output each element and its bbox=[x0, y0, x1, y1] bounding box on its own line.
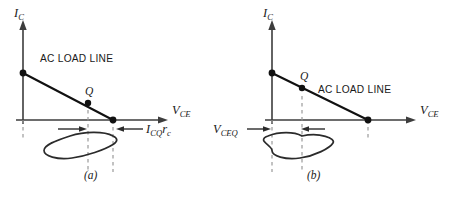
panel-b-swing-arrow-right bbox=[247, 126, 271, 132]
panel-b-y-axis-label: IC bbox=[263, 7, 273, 20]
panel-b-x-axis-label: VCE bbox=[420, 104, 439, 117]
panel-b-saturation-point bbox=[269, 70, 276, 77]
panel-a-swing-magnitude-label: ICQrc bbox=[146, 123, 171, 136]
panel-a-output-waveform bbox=[44, 132, 117, 158]
panel-a-caption: (a) bbox=[84, 170, 97, 182]
panel-b-graphics bbox=[247, 20, 416, 172]
panel-a-q-point bbox=[85, 100, 91, 106]
panel-a-cutoff-point bbox=[110, 117, 117, 124]
ac-load-line-figure: IC VCE AC LOAD LINE Q ICQrc (a) IC VCE A… bbox=[0, 0, 449, 197]
panel-a-y-axis-label: IC bbox=[14, 7, 24, 20]
panel-a-swing-arrow-left bbox=[116, 126, 143, 132]
panel-b-ac-load-line-label: AC LOAD LINE bbox=[318, 85, 391, 95]
panel-b-cutoff-point bbox=[365, 117, 372, 124]
panel-a-saturation-point bbox=[20, 70, 27, 77]
panel-b-x-axis bbox=[265, 116, 416, 123]
panel-a-x-axis-label: VCE bbox=[172, 104, 191, 117]
panel-b-caption: (b) bbox=[307, 170, 320, 182]
panel-a-swing-arrow-right bbox=[58, 126, 87, 132]
panel-a-ac-load-line bbox=[23, 73, 113, 120]
panel-a-ac-load-line-label: AC LOAD LINE bbox=[40, 54, 113, 64]
panel-b-ac-load-line bbox=[272, 73, 368, 120]
panel-a-q-label: Q bbox=[85, 86, 93, 98]
panel-b-swing-arrow-left bbox=[301, 126, 325, 132]
panel-b-q-label: Q bbox=[300, 71, 308, 83]
figure-canvas bbox=[0, 0, 449, 197]
panel-b-dashed-guides bbox=[272, 96, 368, 172]
panel-b-q-point bbox=[299, 85, 305, 91]
panel-b-output-waveform bbox=[264, 133, 334, 159]
panel-b-swing-magnitude-label: VCEQ bbox=[213, 123, 238, 136]
